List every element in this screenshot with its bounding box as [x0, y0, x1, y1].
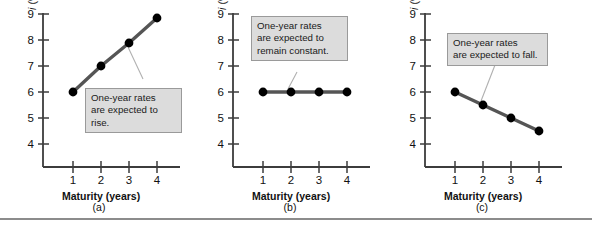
data-point [507, 114, 516, 123]
x-tick-label-2: 2 [94, 174, 108, 186]
callout-leader-line [481, 65, 495, 101]
x-tick-label-2: 2 [476, 174, 490, 186]
y-tick-label-7: 7 [210, 60, 224, 72]
data-point [451, 88, 460, 97]
panel-c: i (%) 9 8 7 6 5 4 1 2 3 4 Maturity (year… [382, 0, 579, 212]
x-tick-label-4: 4 [150, 174, 164, 186]
interest-rate-expectations-figure: i (%) 9 8 7 6 5 4 1 2 3 4 Maturity (year… [0, 0, 592, 226]
panel-a: i (%) 9 8 7 6 5 4 1 2 3 4 Maturity (year… [0, 0, 197, 212]
x-tick-label-3: 3 [122, 174, 136, 186]
x-tick-label-3: 3 [312, 174, 326, 186]
callout-leader-line [288, 72, 297, 89]
data-point [69, 88, 78, 97]
x-tick-label-4: 4 [532, 174, 546, 186]
bottom-divider-rule [0, 218, 592, 220]
x-tick-label-2: 2 [284, 174, 298, 186]
data-line [455, 92, 539, 131]
panel-caption-c: (c) [468, 201, 496, 213]
y-tick-label-4: 4 [20, 138, 34, 150]
y-tick-label-8: 8 [20, 34, 34, 46]
y-tick-label-5: 5 [20, 112, 34, 124]
y-tick-label-5: 5 [402, 112, 416, 124]
data-point [343, 88, 352, 97]
callout-text-a: One-year rates are expected to rise. [91, 92, 158, 128]
data-point [315, 88, 324, 97]
y-tick-label-9: 9 [210, 8, 224, 20]
y-tick-label-6: 6 [20, 86, 34, 98]
x-tick-label-4: 4 [340, 174, 354, 186]
data-point [97, 62, 106, 71]
callout-box-c: One-year rates are expected to fall. [447, 33, 548, 66]
y-tick-label-7: 7 [402, 60, 416, 72]
y-tick-label-5: 5 [210, 112, 224, 124]
y-tick-label-8: 8 [402, 34, 416, 46]
y-tick-label-6: 6 [210, 86, 224, 98]
y-tick-label-7: 7 [20, 60, 34, 72]
x-tick-label-1: 1 [256, 174, 270, 186]
panel-b: i (%) 9 8 7 6 5 4 1 2 3 4 Maturity (year… [190, 0, 387, 212]
panel-caption-b: (b) [276, 201, 304, 213]
callout-box-a: One-year rates are expected to rise. [85, 88, 182, 133]
y-tick-label-4: 4 [210, 138, 224, 150]
y-tick-label-4: 4 [402, 138, 416, 150]
y-tick-label-8: 8 [210, 34, 224, 46]
panel-caption-a: (a) [85, 201, 113, 213]
x-tick-label-3: 3 [504, 174, 518, 186]
callout-leader-line [128, 47, 143, 79]
data-line [73, 18, 157, 92]
y-tick-label-9: 9 [402, 8, 416, 20]
data-point [125, 39, 134, 48]
x-tick-label-1: 1 [66, 174, 80, 186]
callout-text-c: One-year rates are expected to fall. [453, 37, 538, 60]
y-tick-label-6: 6 [402, 86, 416, 98]
data-point [535, 127, 544, 136]
x-tick-label-1: 1 [448, 174, 462, 186]
callout-box-b: One-year rates are expected to remain co… [251, 16, 348, 61]
data-point [259, 88, 268, 97]
data-point [479, 101, 488, 110]
callout-text-b: One-year rates are expected to remain co… [257, 20, 329, 56]
data-point [287, 88, 296, 97]
y-tick-label-9: 9 [20, 8, 34, 20]
data-point [153, 14, 162, 23]
